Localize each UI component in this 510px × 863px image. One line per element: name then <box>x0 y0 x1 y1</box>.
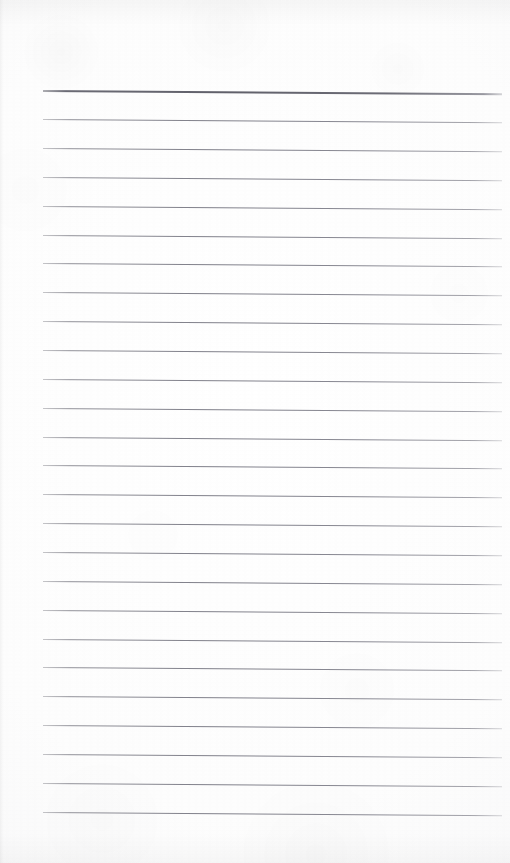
rule-line <box>43 523 502 527</box>
rule-line <box>43 321 502 325</box>
rule-line <box>43 350 502 354</box>
rule-line <box>43 783 502 787</box>
rule-line <box>43 379 502 383</box>
scanned-page <box>0 0 510 863</box>
rule-line <box>43 465 502 469</box>
rule-line <box>43 725 502 729</box>
rule-line <box>43 292 502 296</box>
rule-line <box>43 206 502 210</box>
ruled-lines-group <box>0 0 510 863</box>
rule-line <box>43 581 502 585</box>
rule-line <box>43 177 502 181</box>
rule-line <box>43 235 502 239</box>
rule-line <box>43 552 502 556</box>
header-rule-line <box>43 90 502 95</box>
rule-line <box>43 494 502 498</box>
rule-line <box>43 754 502 758</box>
rule-line <box>43 639 502 643</box>
rule-line <box>43 437 502 441</box>
rule-line <box>43 667 502 671</box>
rule-line <box>43 812 502 816</box>
rule-line <box>43 408 502 412</box>
rule-line <box>43 148 502 152</box>
rule-line <box>43 263 502 267</box>
rule-line <box>43 610 502 614</box>
rule-line <box>43 696 502 700</box>
rule-line <box>43 119 502 123</box>
